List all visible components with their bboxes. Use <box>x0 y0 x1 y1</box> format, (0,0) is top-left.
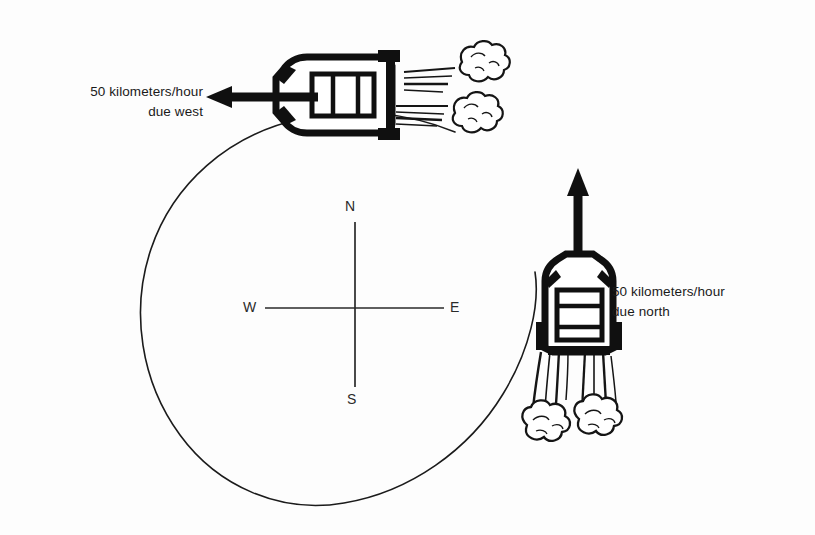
compass-label-west: W <box>243 299 256 315</box>
compass-label-south: S <box>347 391 356 407</box>
car-top-speed-lines <box>396 68 455 126</box>
north-velocity-arrow <box>567 168 589 256</box>
car-top-exhaust-puff-1 <box>460 41 510 81</box>
car-right-exhaust-puff-2 <box>574 394 622 435</box>
north-velocity-label: 50 kilometers/hour due north <box>612 282 792 321</box>
compass-label-north: N <box>345 198 355 214</box>
car-top <box>276 41 510 140</box>
west-velocity-label: 50 kilometers/hour due west <box>40 82 203 121</box>
car-top-exhaust-puff-2 <box>453 92 503 132</box>
car-right-exhaust-puff-1 <box>522 400 570 441</box>
compass-label-east: E <box>450 299 459 315</box>
car-right-body <box>536 254 622 355</box>
car-right <box>522 254 622 441</box>
compass-rose <box>265 222 444 387</box>
reference-circle <box>141 113 537 506</box>
physics-figure: 50 kilometers/hour due west 50 kilometer… <box>0 0 815 535</box>
figure-canvas <box>0 0 815 535</box>
